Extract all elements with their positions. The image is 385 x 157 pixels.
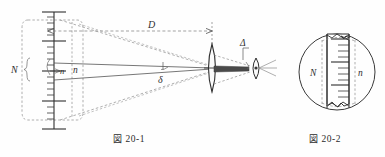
fig1-group: N n n D δ (10, 12, 277, 129)
fig1-ray-cone-upper2 (79, 24, 212, 66)
fig1-label-n-b: n (73, 65, 78, 75)
fig1-caption: 図20-1 (113, 132, 145, 145)
fig1-beam-edge-upper (214, 55, 250, 66)
fig1-n-brace (24, 58, 30, 81)
fig2-caption-number: 20-2 (322, 134, 341, 144)
fig1-beam-edge-lower (214, 72, 250, 84)
fig1-delta-arc (161, 67, 168, 70)
fig1-eye-exit-rays (259, 60, 277, 76)
fig1-label-D: D (147, 19, 156, 30)
fig1-ruler-minor-ticks (47, 17, 54, 119)
fig2-label-N: N (309, 68, 317, 78)
fig2-label-n: n (358, 68, 363, 78)
fig1-caption-number: 20-1 (126, 134, 145, 144)
fig1-n-arc (47, 59, 50, 75)
fig1-ray-cone-lower2 (79, 72, 212, 116)
fig1-label-delta: δ (158, 74, 163, 85)
fig1-label-Delta: Δ (239, 38, 246, 48)
fig1-eye-pupil (254, 66, 257, 69)
fig1-beam-to-eye (214, 66, 249, 72)
fig1-label-n-a: n (60, 66, 64, 76)
fig1-caption-jp: 図 (113, 134, 126, 144)
fig2-caption-jp: 図 (309, 134, 322, 144)
fig1-label-N: N (10, 64, 19, 75)
fig2-caption: 図20-2 (309, 132, 341, 145)
fig1-aperture-bracket (243, 48, 249, 60)
fig2-group: N n (299, 34, 375, 110)
figure-page: N n n D δ (0, 0, 385, 157)
